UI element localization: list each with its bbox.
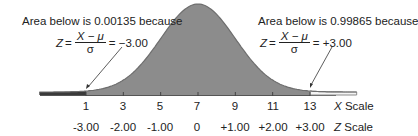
x-tick-label: 13 xyxy=(304,100,317,112)
denominator: σ xyxy=(87,43,94,55)
x-tick-label: 7 xyxy=(194,100,200,112)
result: = −3.00 xyxy=(109,37,148,49)
z-scale-label: Z Scale xyxy=(334,121,373,134)
z-tick-label: -1.00 xyxy=(147,121,173,133)
x-tick-label: 9 xyxy=(232,100,238,112)
numerator: X − μ xyxy=(75,30,106,43)
z-tick-label: 0 xyxy=(194,121,200,133)
result: = +3.00 xyxy=(313,37,352,49)
left-annotation-text: Area below is 0.00135 because xyxy=(22,15,182,28)
z-tick-label: +3.00 xyxy=(295,121,324,133)
right-annotation-formula: Z = X − μ σ = +3.00 xyxy=(260,30,352,55)
fraction: X − μ σ xyxy=(75,30,106,55)
z-tick-label: +1.00 xyxy=(220,121,249,133)
z-symbol: Z xyxy=(260,37,267,49)
z-symbol: Z xyxy=(56,37,63,49)
denominator: σ xyxy=(291,43,298,55)
z-tick-label: -3.00 xyxy=(73,121,99,133)
x-tick-label: 3 xyxy=(120,100,126,112)
x-scale-text: Scale xyxy=(345,100,374,112)
x-tick-label: 11 xyxy=(267,100,279,112)
right-pointer-arrowhead xyxy=(310,83,313,88)
numerator: X − μ xyxy=(279,30,310,43)
left-annotation-formula: Z = X − μ σ = −3.00 xyxy=(56,30,148,55)
fraction: X − μ σ xyxy=(279,30,310,55)
equals-sign: = xyxy=(269,37,276,49)
z-tick-label: -2.00 xyxy=(110,121,136,133)
x-tick-label: 5 xyxy=(157,100,163,112)
z-scale-text: Scale xyxy=(344,121,373,133)
equals-sign: = xyxy=(65,37,72,49)
x-tick-label: 1 xyxy=(83,100,89,112)
x-scale-label: X Scale xyxy=(334,100,374,113)
right-annotation-text: Area below is 0.99865 because xyxy=(258,15,418,28)
z-tick-label: +2.00 xyxy=(258,121,287,133)
